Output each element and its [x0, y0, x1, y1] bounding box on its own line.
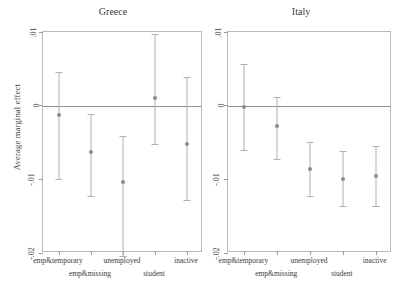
y-axis-tick-label: .01 — [214, 27, 223, 37]
error-bar-cap — [152, 144, 159, 145]
error-bar-cap — [88, 114, 95, 115]
figure-average-marginal-effect: Average marginal effect Greece .010-.01-… — [0, 0, 405, 293]
y-axis-tick-mark — [224, 253, 228, 254]
x-axis-category-label: emp&temporary — [219, 256, 269, 265]
y-axis-tick-label: -.01 — [27, 173, 36, 186]
plot-area-italy: .010-.01-.02 — [227, 31, 391, 252]
x-axis-category-label: student — [331, 269, 353, 278]
data-point — [89, 150, 93, 154]
error-bar-cap — [241, 64, 248, 65]
error-bar — [59, 72, 60, 179]
x-axis-tick — [244, 251, 245, 255]
error-bar-cap — [56, 179, 63, 180]
y-axis-tick-mark — [224, 179, 228, 180]
error-bar-cap — [307, 142, 314, 143]
zero-reference-line — [43, 106, 201, 107]
error-bar-cap — [152, 34, 159, 35]
error-bar — [155, 34, 156, 144]
x-axis-category-label: emp&missing — [69, 269, 111, 278]
data-point — [374, 174, 378, 178]
error-bar-cap — [120, 136, 127, 137]
plot-area-greece: .010-.01-.02 — [42, 31, 202, 252]
x-axis-tick — [91, 251, 92, 255]
error-bar-cap — [274, 97, 281, 98]
x-axis-tick — [59, 251, 60, 255]
x-axis-tick — [187, 251, 188, 255]
panel-title-greece: Greece — [18, 6, 208, 17]
error-bar — [91, 114, 92, 196]
error-bar-cap — [274, 159, 281, 160]
error-bar-cap — [339, 151, 346, 152]
error-bar-cap — [372, 206, 379, 207]
error-bar-cap — [241, 150, 248, 151]
y-axis-tick-mark — [224, 32, 228, 33]
error-bar-cap — [88, 196, 95, 197]
data-point — [121, 180, 125, 184]
error-bar-cap — [372, 146, 379, 147]
y-axis-tick-mark — [39, 253, 43, 254]
data-point — [341, 177, 345, 181]
x-axis-tick — [376, 251, 377, 255]
y-axis-tick-label: 0 — [217, 104, 226, 108]
error-bar — [123, 136, 124, 256]
data-point — [308, 167, 312, 171]
x-axis-category-label: unemployed — [103, 256, 140, 265]
x-axis-tick — [310, 251, 311, 255]
error-bar-cap — [56, 72, 63, 73]
y-axis-tick-label: .01 — [29, 27, 38, 37]
error-bar-cap — [184, 77, 191, 78]
x-axis-tick — [155, 251, 156, 255]
panel-italy: Italy .010-.01-.02 emp&temporaryemp&miss… — [203, 0, 399, 293]
x-axis-category-label: emp&missing — [255, 269, 297, 278]
x-axis-category-label: inactive — [174, 256, 198, 265]
y-axis-tick-mark — [39, 32, 43, 33]
x-axis-category-label: unemployed — [290, 256, 327, 265]
data-point — [275, 124, 279, 128]
panel-greece: Greece .010-.01-.02 emp&temporaryemp&mis… — [18, 0, 208, 293]
data-point — [153, 96, 157, 100]
panel-title-italy: Italy — [203, 6, 399, 17]
error-bar-cap — [339, 206, 346, 207]
x-axis-category-label: student — [143, 269, 165, 278]
error-bar-cap — [184, 200, 191, 201]
zero-reference-line — [228, 106, 390, 107]
data-point — [242, 105, 246, 109]
y-axis-tick-mark — [39, 179, 43, 180]
x-axis-category-label: emp&temporary — [33, 256, 83, 265]
error-bar — [187, 77, 188, 200]
y-axis-tick-label: -.01 — [212, 173, 221, 186]
data-point — [185, 142, 189, 146]
x-axis-category-label: inactive — [363, 256, 387, 265]
x-axis-tick — [277, 251, 278, 255]
y-axis-tick-label: 0 — [32, 104, 41, 108]
error-bar-cap — [307, 196, 314, 197]
x-axis-tick — [343, 251, 344, 255]
data-point — [57, 113, 61, 117]
